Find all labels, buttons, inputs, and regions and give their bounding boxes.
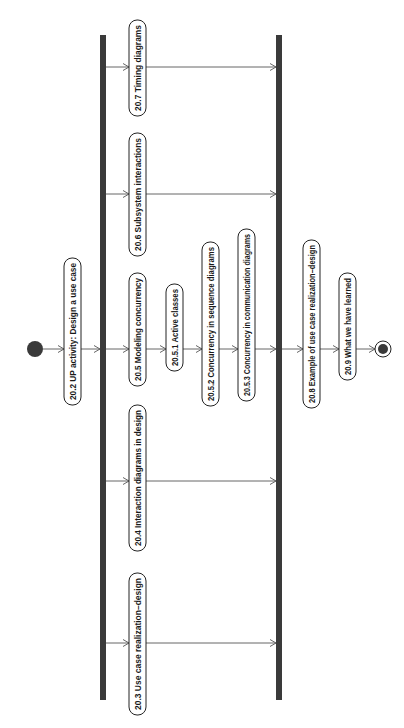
activity-label: 20.8 Example of use case realization–des…: [306, 245, 317, 403]
activity-node-a2053: 20.5.3 Concurrency in communication diag…: [238, 229, 255, 401]
activity-label: 20.3 Use case realization–design: [132, 578, 143, 710]
flow-a2053-to-join: [255, 346, 276, 353]
flow-join-to-a208: [282, 346, 303, 353]
activity-label: 20.4 Interaction diagrams in design: [132, 410, 143, 546]
flow-a202-to-fork: [81, 346, 100, 353]
activity-label: 20.5 Modeling concurrency: [132, 277, 143, 381]
flow-a2052-to-a2053: [219, 346, 238, 353]
flow-a206-to-join: [146, 191, 276, 198]
activity-node-a207: 20.7 Timing diagrams: [129, 20, 146, 116]
flow-a203-to-join: [146, 640, 276, 647]
activity-label: 20.5.3 Concurrency in communication diag…: [241, 234, 252, 396]
activity-label: 20.7 Timing diagrams: [132, 25, 143, 111]
final-node: [375, 341, 391, 357]
activity-node-a202: 20.2 UP activity: Design a use case: [64, 258, 81, 405]
flow-a209-to-end: [356, 346, 375, 353]
activity-label: 20.6 Subsystem interactions: [132, 138, 143, 251]
flow-a207-to-join: [146, 64, 276, 71]
flow-fork-to-a204: [106, 478, 129, 485]
nodes-layer: 20.2 UP activity: Design a use case20.7 …: [27, 20, 391, 715]
flow-fork-to-a206: [106, 191, 129, 198]
flow-a204-to-join: [146, 478, 276, 485]
activity-node-a206: 20.6 Subsystem interactions: [129, 133, 146, 256]
activity-label: 20.5.2 Concurrency in sequence diagrams: [205, 247, 216, 401]
activity-label: 20.5.1 Active classes: [169, 289, 180, 366]
activity-node-a205: 20.5 Modeling concurrency: [129, 273, 146, 386]
flow-fork-to-a207: [106, 64, 129, 71]
activity-node-a2052: 20.5.2 Concurrency in sequence diagrams: [202, 242, 219, 406]
activity-label: 20.2 UP activity: Design a use case: [67, 263, 78, 400]
activity-node-a204: 20.4 Interaction diagrams in design: [129, 405, 146, 551]
flow-a2051-to-a2052: [183, 346, 202, 353]
flow-start-to-a202: [43, 346, 64, 353]
activity-node-a208: 20.8 Example of use case realization–des…: [303, 240, 320, 408]
join-bar: [276, 35, 282, 700]
activity-label: 20.9 What we have learned: [342, 278, 353, 375]
flow-a208-to-a209: [320, 346, 339, 353]
flow-fork-to-a203: [106, 640, 129, 647]
flow-a205-to-a2051: [146, 346, 166, 353]
activity-node-a203: 20.3 Use case realization–design: [129, 573, 146, 715]
activity-diagram: 20.2 UP activity: Design a use case20.7 …: [0, 0, 404, 728]
initial-node: [27, 341, 43, 357]
activity-node-a209: 20.9 What we have learned: [339, 273, 356, 380]
activity-node-a2051: 20.5.1 Active classes: [166, 284, 183, 371]
fork-bar: [100, 35, 106, 700]
flow-fork-to-a205: [106, 346, 129, 353]
